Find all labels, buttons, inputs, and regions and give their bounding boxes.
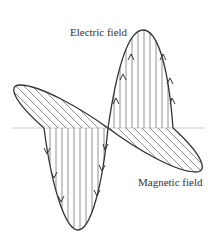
magnetic-field-lobe-left — [0, 80, 108, 128]
electric-field-label: Electric field — [70, 26, 127, 38]
magnetic-field-lobe-right — [108, 128, 213, 176]
electric-field-lobe-down — [44, 128, 108, 237]
magnetic-field-label: Magnetic field — [138, 176, 202, 188]
